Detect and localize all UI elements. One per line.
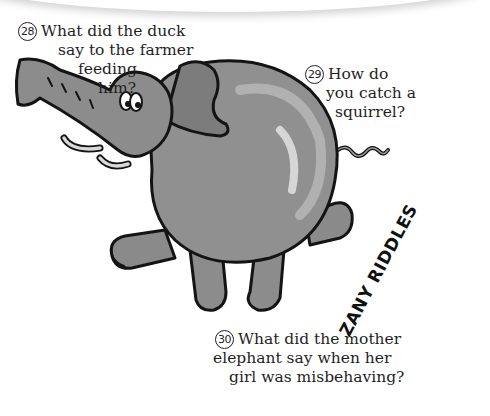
riddle-number-badge: 30 (215, 330, 234, 349)
riddle-text-line: What did the duck (41, 22, 185, 40)
riddle-number-badge: 28 (18, 22, 37, 41)
riddle-29: 29How do you catch a squirrel? (305, 65, 445, 122)
riddle-28: 28What did the duck say to the farmer fe… (18, 22, 208, 98)
riddle-text-line: him? (18, 79, 208, 98)
riddle-number-badge: 29 (305, 65, 324, 84)
riddle-text-line: say to the farmer (18, 41, 208, 60)
riddle-text-line: elephant say when her (213, 349, 415, 368)
riddle-text-line: What did the mother (238, 330, 401, 348)
riddle-text-line: feeding (18, 60, 208, 79)
riddle-text-line: you catch a (305, 84, 445, 103)
riddle-text-line: squirrel? (305, 103, 445, 122)
riddle-text-line: girl was misbehaving? (215, 368, 415, 387)
riddle-30: 30What did the mother elephant say when … (215, 330, 415, 387)
riddle-text-line: How do (328, 65, 388, 83)
